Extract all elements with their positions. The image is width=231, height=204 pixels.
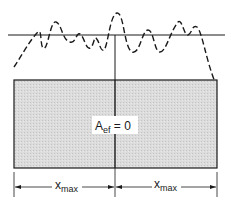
arrowhead-left-start-icon [15, 185, 21, 189]
arrowhead-right-end-icon [210, 185, 216, 189]
dimension-label-right: xmax [154, 177, 178, 193]
effective-area-label: Aef = 0 [95, 119, 131, 135]
diagram-canvas: Aef = 0 xmax xmax [0, 0, 231, 204]
arrowhead-left-end-icon [108, 185, 114, 189]
dimension-label-left: xmax [55, 178, 79, 194]
arrowhead-right-start-icon [116, 185, 122, 189]
